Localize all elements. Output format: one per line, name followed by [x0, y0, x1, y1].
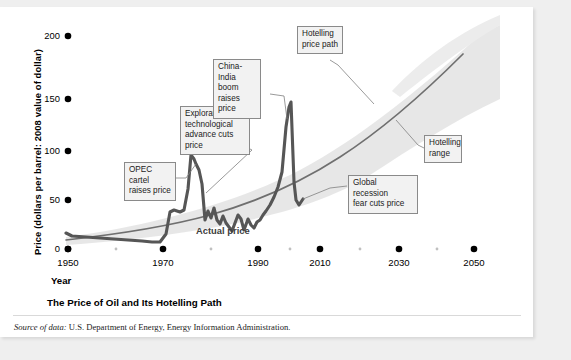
x-tick-dot-1950 — [65, 246, 72, 253]
y-tick-dot-100 — [65, 148, 72, 155]
oil-price-hotelling-chart — [0, 7, 533, 337]
x-axis-title: Year — [51, 275, 71, 286]
x-minor-dot-2040 — [436, 248, 439, 251]
x-axis-tick-label-1990: 1990 — [238, 257, 278, 268]
y-axis-title: Price (dollars per barrel: 2008 value of… — [32, 49, 43, 255]
x-tick-dot-2030 — [396, 246, 403, 253]
x-axis-tick-label-1950: 1950 — [48, 257, 88, 268]
x-tick-dot-2050 — [471, 246, 478, 253]
y-tick-dot-50 — [65, 197, 72, 204]
annotation-china-india-boom[interactable]: China-India boom raises price — [213, 59, 261, 119]
annotation-global-recession[interactable]: Global recession fear cuts price — [348, 175, 418, 214]
leader-line-china-india — [270, 94, 287, 119]
x-tick-dot-1970 — [160, 246, 167, 253]
annotation-hotelling-range[interactable]: Hotelling range — [424, 135, 462, 163]
leader-line-opec — [174, 164, 196, 178]
source-note-text: U.S. Department of Energy, Energy Inform… — [69, 322, 291, 332]
figure-container: 200 150 100 50 0 Price (dollars per barr… — [0, 7, 533, 337]
source-note: Source of data: U.S. Department of Energ… — [14, 322, 290, 332]
textbook-page-sheet: 200 150 100 50 0 Price (dollars per barr… — [0, 7, 533, 337]
figure-title: The Price of Oil and Its Hotelling Path — [47, 297, 222, 308]
annotation-opec-cartel[interactable]: OPEC cartel raises price — [124, 162, 176, 201]
x-minor-dot-1960 — [115, 248, 118, 251]
source-note-label: Source of data: — [14, 322, 67, 332]
y-tick-dot-200 — [65, 33, 72, 40]
x-axis-tick-label-2010: 2010 — [300, 257, 340, 268]
x-axis-tick-label-1970: 1970 — [143, 257, 183, 268]
x-minor-dot-1980 — [210, 248, 213, 251]
page-background: 200 150 100 50 0 Price (dollars per barr… — [0, 0, 571, 360]
y-axis-tick-label-200: 200 — [34, 30, 60, 41]
actual-price-inline-label: Actual price — [196, 225, 250, 236]
x-minor-dot-2000 — [289, 248, 292, 251]
x-axis-tick-label-2030: 2030 — [379, 257, 419, 268]
source-divider — [13, 315, 521, 316]
x-tick-dot-1990 — [255, 246, 262, 253]
y-tick-dot-150 — [65, 96, 72, 103]
x-tick-dot-2010 — [317, 246, 324, 253]
leader-line-hotelling-path — [330, 60, 374, 104]
annotation-hotelling-price-path[interactable]: Hotelling price path — [297, 26, 343, 54]
x-axis-tick-label-2050: 2050 — [454, 257, 494, 268]
x-minor-dot-2020 — [359, 248, 362, 251]
